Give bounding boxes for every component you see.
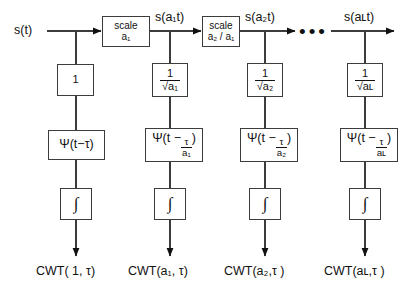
- wavelet-box-a1-expression: Ψ(t − τ a₁ ): [152, 132, 196, 159]
- wavelet-box-a2-prefix: Ψ(t −: [247, 131, 276, 145]
- wavelet-box-a2-suffix: ): [287, 131, 291, 145]
- gain-box-1[interactable]: 1: [57, 64, 94, 96]
- gain-box-inv-sqrt-aL[interactable]: 1 √aʟ: [347, 63, 383, 97]
- scale-box-a2-line1: scale: [208, 21, 235, 32]
- output-label-cwt-1: CWT( 1, τ): [36, 265, 95, 278]
- gain-box-a2-numerator: 1: [260, 68, 270, 79]
- wavelet-box-a2-denominator: a₂: [276, 147, 287, 158]
- gain-box-a1-numerator: 1: [165, 68, 175, 79]
- scale-box-a2-line2: a₂ / a₁: [208, 32, 235, 43]
- scale-box-a1-line2: a₁: [114, 32, 137, 43]
- integral-icon-4: ∫: [363, 195, 368, 213]
- gain-box-a1-fraction: 1 √a₁: [160, 68, 180, 91]
- gain-box-a1-radicand: a₁: [168, 80, 178, 92]
- output-label-cwt-a2: CWT(a₂,τ ): [224, 265, 284, 278]
- gain-box-inv-sqrt-a2[interactable]: 1 √a₂: [247, 63, 283, 97]
- signal-label-aLt: s(aʟt): [344, 11, 374, 24]
- ellipsis-icon: •••: [299, 22, 328, 41]
- gain-box-inv-sqrt-a1[interactable]: 1 √a₁: [152, 63, 188, 97]
- gain-box-a2-fraction: 1 √a₂: [255, 68, 275, 91]
- wavelet-box-aL-denominator: aʟ: [376, 147, 387, 158]
- gain-box-a2-radicand: a₂: [263, 80, 273, 92]
- integral-box-2[interactable]: ∫: [154, 188, 186, 220]
- signal-label-a1t: s(a₁t): [155, 11, 184, 24]
- wavelet-box-aL-suffix: ): [387, 131, 391, 145]
- output-label-cwt-aL: CWT(aʟ,τ ): [324, 265, 385, 278]
- integral-box-4[interactable]: ∫: [349, 188, 381, 220]
- scale-box-a1-line1: scale: [114, 21, 137, 32]
- signal-label-a2t: s(a₂t): [245, 11, 275, 24]
- scale-box-a2-over-a1[interactable]: scale a₂ / a₁: [202, 16, 240, 47]
- wavelet-box-aL-fraction: τ aʟ: [376, 137, 387, 158]
- wavelet-box-a2[interactable]: Ψ(t − τ a₂ ): [240, 128, 298, 162]
- wavelet-box-aL-numerator: τ: [378, 137, 384, 147]
- wavelet-box-a1-denominator: a₁: [181, 147, 192, 158]
- wavelet-box-a1-prefix: Ψ(t −: [152, 131, 181, 145]
- gain-box-aL-numerator: 1: [360, 68, 370, 79]
- gain-box-a2-denominator: √a₂: [255, 80, 275, 92]
- integral-icon-2: ∫: [168, 195, 173, 213]
- wavelet-box-tau-label: Ψ(t−τ): [59, 138, 93, 151]
- gain-box-aL-radicand: aʟ: [363, 80, 374, 92]
- integral-box-1[interactable]: ∫: [60, 188, 92, 220]
- gain-box-1-label: 1: [72, 74, 78, 86]
- wavelet-box-a1-fraction: τ a₁: [181, 137, 192, 158]
- wavelet-box-aL-expression: Ψ(t − τ aʟ ): [347, 132, 391, 159]
- wavelet-box-tau[interactable]: Ψ(t−τ): [48, 130, 105, 160]
- integral-box-3[interactable]: ∫: [249, 188, 281, 220]
- wavelet-box-a1[interactable]: Ψ(t − τ a₁ ): [145, 128, 203, 162]
- wavelet-box-a2-expression: Ψ(t − τ a₂ ): [247, 132, 291, 159]
- wavelet-box-aL-prefix: Ψ(t −: [347, 131, 376, 145]
- wavelet-box-aL[interactable]: Ψ(t − τ aʟ ): [340, 128, 398, 162]
- scale-box-a1[interactable]: scale a₁: [102, 16, 150, 47]
- gain-box-aL-fraction: 1 √aʟ: [355, 68, 376, 91]
- source-signal-label: s(t): [14, 24, 32, 37]
- wavelet-box-a2-numerator: τ: [278, 137, 284, 147]
- output-label-cwt-a1: CWT(a₁, τ): [128, 265, 188, 278]
- cwt-block-diagram: s(t) scale a₁ scale a₂ / a₁ s(a₁t) s(a₂t…: [0, 0, 417, 291]
- wavelet-box-a1-suffix: ): [192, 131, 196, 145]
- gain-box-aL-denominator: √aʟ: [355, 80, 376, 92]
- wavelet-box-a2-fraction: τ a₂: [276, 137, 287, 158]
- gain-box-a1-denominator: √a₁: [160, 80, 180, 92]
- integral-icon-1: ∫: [74, 195, 79, 213]
- wavelet-box-a1-numerator: τ: [183, 137, 189, 147]
- integral-icon-3: ∫: [263, 195, 268, 213]
